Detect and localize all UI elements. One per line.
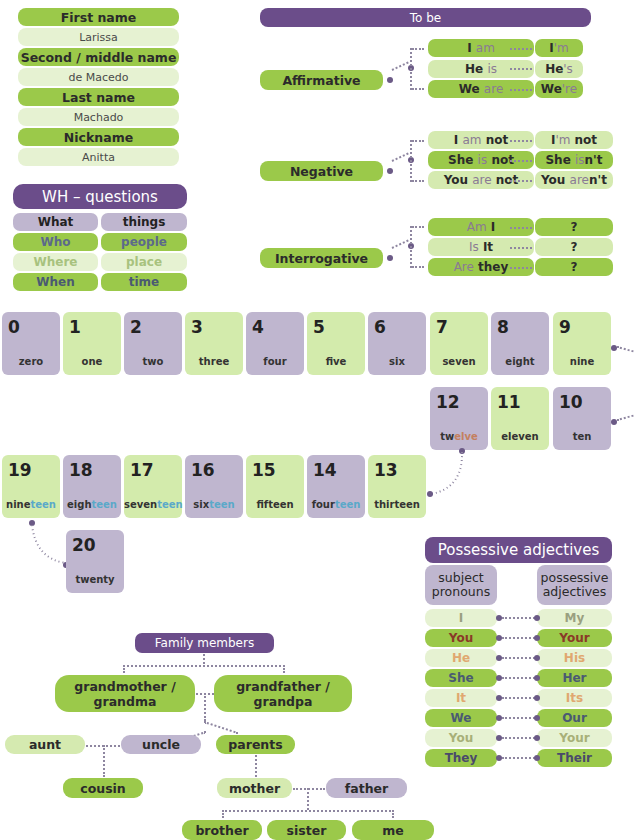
connector-dot bbox=[534, 715, 540, 721]
connector-line bbox=[204, 721, 239, 734]
middle-name-value: de Macedo bbox=[18, 68, 179, 86]
possessive-adjective: His bbox=[537, 649, 612, 667]
wh-meaning: place bbox=[101, 253, 187, 271]
possessive-adjective: Their bbox=[537, 749, 612, 767]
connector-line bbox=[255, 755, 257, 777]
connector-dot bbox=[534, 755, 540, 761]
wh-word: What bbox=[13, 213, 98, 231]
sister-node: sister bbox=[267, 820, 346, 840]
connector-line bbox=[293, 788, 325, 790]
first-name-label: First name bbox=[18, 8, 179, 26]
connector-dot bbox=[387, 77, 393, 83]
connector-line bbox=[103, 745, 105, 777]
possessive-adjective: My bbox=[537, 609, 612, 627]
uncle-node: uncle bbox=[121, 735, 201, 754]
connector-line bbox=[502, 637, 535, 639]
possessive-adjective: Her bbox=[537, 669, 612, 687]
subject-pronoun: I bbox=[425, 609, 497, 627]
subject-pronouns-header: subject pronouns bbox=[425, 565, 497, 605]
number-card: 4four bbox=[246, 312, 304, 375]
wh-word: Who bbox=[13, 233, 98, 251]
connector-line bbox=[410, 48, 412, 90]
connector-line bbox=[502, 757, 535, 759]
possessive-title: Possessive adjectives bbox=[425, 537, 612, 563]
connector-line bbox=[222, 810, 224, 818]
connector-line bbox=[412, 88, 424, 90]
wh-title: WH – questions bbox=[13, 184, 187, 209]
connector-line bbox=[412, 140, 424, 142]
aunt-node: aunt bbox=[5, 735, 85, 754]
number-card: 18eighteen bbox=[63, 455, 121, 518]
number-card: 16sixteen bbox=[185, 455, 243, 518]
connector-line bbox=[222, 810, 394, 812]
number-card: 20twenty bbox=[66, 530, 124, 593]
connector-line bbox=[283, 665, 285, 673]
connector-line bbox=[502, 737, 535, 739]
nickname-label: Nickname bbox=[18, 128, 179, 146]
wh-word: Where bbox=[13, 253, 98, 271]
number-card: 17seventeen bbox=[124, 455, 182, 518]
connector-line bbox=[307, 788, 309, 810]
last-name-value: Machado bbox=[18, 108, 179, 126]
negative-label: Negative bbox=[260, 161, 383, 181]
subject-pronoun: It bbox=[425, 689, 497, 707]
last-name-label: Last name bbox=[18, 88, 179, 106]
subject-pronoun: They bbox=[425, 749, 497, 767]
connector-line bbox=[510, 89, 532, 91]
connector-line bbox=[412, 226, 424, 228]
answer-placeholder: ? bbox=[535, 238, 613, 256]
short-form: We're bbox=[535, 80, 583, 98]
connector-line bbox=[392, 61, 409, 70]
grandfather-node: grandfather / grandpa bbox=[214, 675, 352, 712]
connector-dot bbox=[534, 615, 540, 621]
wh-meaning: time bbox=[101, 273, 187, 291]
short-form: She isn't bbox=[535, 151, 613, 169]
connector-line bbox=[510, 247, 532, 249]
connector-line bbox=[123, 665, 125, 673]
number-card: 10ten bbox=[553, 387, 611, 450]
possessive-adjectives-header: possessive adjectives bbox=[537, 565, 612, 605]
connector-line bbox=[412, 48, 424, 50]
possessive-adjective: Your bbox=[537, 729, 612, 747]
connector-dot bbox=[387, 168, 393, 174]
subject-pronoun: He bbox=[425, 649, 497, 667]
connector-dot bbox=[534, 635, 540, 641]
me-node: me bbox=[352, 820, 434, 840]
connector-dot bbox=[534, 675, 540, 681]
connector-line bbox=[412, 266, 424, 268]
connector-line bbox=[410, 226, 412, 268]
number-card: 11eleven bbox=[491, 387, 549, 450]
number-card: 14fourteen bbox=[307, 455, 365, 518]
connector-dot bbox=[427, 491, 433, 497]
father-node: father bbox=[326, 778, 407, 798]
connector-line bbox=[203, 654, 205, 664]
connector-line bbox=[510, 140, 532, 142]
connector-line bbox=[510, 267, 532, 269]
number-card: 19nineteen bbox=[2, 455, 60, 518]
connector-line bbox=[123, 665, 285, 667]
connector-line bbox=[510, 227, 532, 229]
brother-node: brother bbox=[182, 820, 262, 840]
connector-dot bbox=[534, 735, 540, 741]
short-form: You aren't bbox=[535, 171, 613, 189]
connector-line bbox=[617, 415, 634, 421]
short-form: He's bbox=[535, 60, 583, 78]
number-card: 8eight bbox=[491, 312, 549, 375]
subject-pronoun: She bbox=[425, 669, 497, 687]
answer-placeholder: ? bbox=[535, 258, 613, 276]
possessive-adjective: Our bbox=[537, 709, 612, 727]
connector-line bbox=[502, 657, 535, 659]
connector-line bbox=[510, 68, 532, 70]
subject-pronoun: We bbox=[425, 709, 497, 727]
number-card: 5five bbox=[307, 312, 365, 375]
number-card: 15fifteen bbox=[246, 455, 304, 518]
subject-pronoun: You bbox=[425, 629, 497, 647]
mother-node: mother bbox=[217, 778, 292, 798]
answer-placeholder: ? bbox=[535, 218, 613, 236]
connector-line bbox=[510, 180, 532, 182]
family-title: Family members bbox=[135, 633, 274, 653]
connector-line bbox=[502, 677, 535, 679]
interrogative-label: Interrogative bbox=[260, 248, 383, 268]
connector-line bbox=[392, 239, 409, 248]
connector-line bbox=[410, 140, 412, 182]
